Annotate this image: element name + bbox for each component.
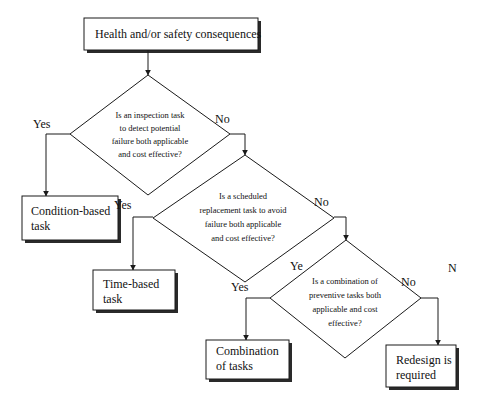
svg-text:failure both applicable: failure both applicable [205, 219, 282, 229]
d3-yes-label: Ye [290, 259, 303, 273]
stray-n-label: N [448, 261, 457, 275]
arrow-d2-yes [133, 217, 153, 270]
d2-no-label: No [314, 195, 329, 209]
outcome-condition-based: Condition-based task [22, 196, 121, 243]
svg-text:required: required [396, 368, 436, 382]
svg-text:and cost effective?: and cost effective? [118, 149, 182, 159]
svg-text:failure both applicable: failure both applicable [112, 136, 189, 146]
outcome-redesign-required: Redesign is required [386, 345, 459, 390]
d1-no-label: No [215, 112, 230, 126]
svg-text:effective?: effective? [328, 318, 362, 328]
d2-yes-bottom-label: Yes [231, 280, 249, 294]
svg-text:and cost effective?: and cost effective? [211, 233, 275, 243]
svg-text:Condition-based: Condition-based [31, 204, 110, 218]
decision-1-inspection: Is an inspection task to detect potentia… [70, 75, 230, 195]
svg-text:to detect potential: to detect potential [120, 123, 182, 133]
start-box: Health and/or safety consequences [84, 18, 262, 53]
svg-text:replacement task to avoid: replacement task to avoid [199, 205, 287, 215]
svg-text:Time-based: Time-based [103, 277, 159, 291]
svg-text:Redesign is: Redesign is [396, 353, 452, 367]
svg-text:Combination: Combination [216, 344, 279, 358]
svg-text:of tasks: of tasks [216, 359, 253, 373]
d3-no-label: No [401, 275, 416, 289]
svg-text:Is an inspection task: Is an inspection task [115, 110, 185, 120]
arrow-d2-no [334, 217, 346, 240]
arrow-d1-yes [46, 134, 70, 196]
arrow-d1-no [230, 134, 245, 155]
outcome-time-based: Time-based task [93, 270, 178, 313]
decision-3-combination: Is a combination of preventive tasks bot… [270, 240, 421, 358]
d2-yes-top-label: Yes [114, 198, 132, 212]
decision-2-scheduled-replacement: Is a scheduled replacement task to avoid… [153, 155, 334, 282]
d1-yes-label: Yes [33, 117, 51, 131]
start-label: Health and/or safety consequences [95, 27, 262, 41]
svg-text:preventive tasks both: preventive tasks both [309, 290, 382, 300]
arrow-d3-yes [246, 298, 270, 340]
outcome-combination-of-tasks: Combination of tasks [206, 340, 292, 382]
flowchart: Health and/or safety consequences Is an … [0, 0, 481, 408]
svg-text:applicable and cost: applicable and cost [312, 304, 378, 314]
svg-text:Is a combination of: Is a combination of [312, 276, 378, 286]
svg-text:task: task [103, 292, 122, 306]
svg-text:Is a scheduled: Is a scheduled [219, 191, 268, 201]
svg-text:task: task [31, 219, 50, 233]
arrow-d3-no [421, 298, 438, 345]
